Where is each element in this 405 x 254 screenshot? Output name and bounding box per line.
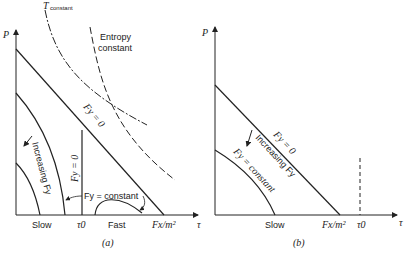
- entropy-label-line1: Entropy: [100, 32, 132, 42]
- t-constant-label: T: [43, 0, 50, 11]
- panel-a: P τ T constant Entropy constant Fy = 0 F…: [2, 0, 201, 249]
- caption-a: (a): [102, 237, 114, 249]
- x-tick-fx: Fx/m²: [151, 219, 177, 230]
- fy-zero-vertical-label: Fy = 0: [69, 155, 80, 183]
- panel-b: P τ Fy = 0 Fy = constant Increasing Fy S…: [201, 27, 403, 249]
- entropy-label-line2: constant: [98, 43, 133, 53]
- t-constant-sub: constant: [50, 5, 73, 11]
- fy-constant-leader-left: [66, 196, 82, 200]
- fy-constant-leader-right: [140, 196, 145, 210]
- fy-constant-curve-outer: [16, 163, 40, 215]
- fy-constant-fast-loop: [95, 200, 142, 215]
- x-tick-fast: Fast: [108, 220, 126, 230]
- x-tick-tau0: τ0: [77, 219, 86, 230]
- diagram-canvas: P τ T constant Entropy constant Fy = 0 F…: [0, 0, 405, 254]
- increasing-arrow: [247, 130, 252, 146]
- fy-constant-label: Fy = constant: [84, 191, 139, 201]
- x-tick-fx: Fx/m²: [321, 219, 347, 230]
- y-axis-label: P: [201, 27, 208, 38]
- fy-zero-diagonal-label: Fy = 0: [81, 100, 108, 129]
- caption-b: (b): [293, 237, 305, 249]
- x-axis-label: τ: [197, 219, 201, 230]
- x-tick-slow: Slow: [32, 220, 52, 230]
- x-axis-label: τ: [399, 217, 403, 228]
- x-tick-slow: Slow: [265, 220, 285, 230]
- y-axis-label: P: [2, 29, 9, 40]
- x-tick-tau0: τ0: [357, 219, 366, 230]
